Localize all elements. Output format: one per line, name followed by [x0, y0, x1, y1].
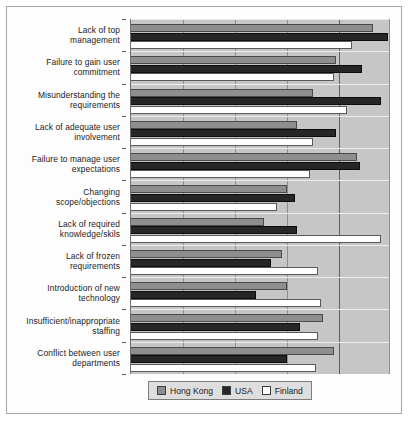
- y-axis-label-line: management: [8, 35, 120, 45]
- legend-swatch-icon: [222, 386, 231, 395]
- bar-group: [131, 277, 389, 309]
- bar-usa: [131, 226, 297, 234]
- category-separator: [131, 309, 389, 310]
- bar-hong-kong: [131, 121, 297, 129]
- y-axis-label-line: technology: [8, 293, 120, 303]
- y-axis-tick: [122, 342, 126, 343]
- bar-finland: [131, 41, 352, 49]
- y-axis-label: Misunderstanding therequirements: [8, 90, 120, 110]
- y-axis-label-line: Conflict between user: [8, 348, 120, 358]
- y-axis-tick: [122, 180, 126, 181]
- bar-hong-kong: [131, 282, 287, 290]
- legend-label: Hong Kong: [170, 386, 213, 396]
- y-axis-label-line: expectations: [8, 164, 120, 174]
- y-axis-label-line: knowledge/skils: [8, 229, 120, 239]
- bar-finland: [131, 364, 316, 372]
- bar-group: [131, 213, 389, 245]
- y-axis-label-line: Lack of required: [8, 219, 120, 229]
- y-axis-label: Insufficient/inappropriatestaffing: [8, 316, 120, 336]
- legend-item-usa[interactable]: USA: [222, 386, 253, 396]
- bar-usa: [131, 259, 271, 267]
- bar-usa: [131, 162, 360, 170]
- bar-group: [131, 342, 389, 374]
- y-axis-tick: [122, 309, 126, 310]
- y-axis-label: Introduction of newtechnology: [8, 283, 120, 303]
- y-axis-tick: [122, 148, 126, 149]
- bar-group: [131, 19, 389, 51]
- y-axis-label-line: Lack of frozen: [8, 251, 120, 261]
- y-axis-label: Lack of topmanagement: [8, 25, 120, 45]
- bar-group: [131, 84, 389, 116]
- y-axis-tick: [122, 116, 126, 117]
- y-axis-tick: [122, 51, 126, 52]
- y-axis-label: Failure to gain usercommitment: [8, 57, 120, 77]
- y-axis-label-line: requirements: [8, 261, 120, 271]
- legend-label: Finland: [275, 386, 303, 396]
- bar-hong-kong: [131, 56, 336, 64]
- legend-item-hong-kong[interactable]: Hong Kong: [157, 386, 213, 396]
- y-axis-label-line: staffing: [8, 326, 120, 336]
- y-axis-label-line: Changing: [8, 187, 120, 197]
- bar-group: [131, 245, 389, 277]
- category-separator: [131, 180, 389, 181]
- y-axis-label: Lack of requiredknowledge/skils: [8, 219, 120, 239]
- bar-hong-kong: [131, 24, 373, 32]
- bar-finland: [131, 106, 347, 114]
- chart-figure: Lack of topmanagementFailure to gain use…: [0, 0, 409, 421]
- y-axis-label-line: involvement: [8, 132, 120, 142]
- bar-hong-kong: [131, 347, 334, 355]
- bar-hong-kong: [131, 185, 287, 193]
- bar-usa: [131, 97, 381, 105]
- bar-hong-kong: [131, 153, 357, 161]
- category-separator: [131, 19, 389, 20]
- y-axis-label-line: departments: [8, 358, 120, 368]
- bar-finland: [131, 170, 310, 178]
- bar-usa: [131, 194, 295, 202]
- y-axis-label-line: scope/objections: [8, 197, 120, 207]
- category-separator: [131, 84, 389, 85]
- category-separator: [131, 213, 389, 214]
- y-axis-labels: Lack of topmanagementFailure to gain use…: [12, 19, 126, 374]
- bar-hong-kong: [131, 250, 282, 258]
- bar-hong-kong: [131, 218, 264, 226]
- y-axis-label: Lack of adequate userinvolvement: [8, 122, 120, 142]
- bar-finland: [131, 73, 334, 81]
- category-separator: [131, 148, 389, 149]
- y-axis-label-line: Lack of adequate user: [8, 122, 120, 132]
- bar-usa: [131, 129, 336, 137]
- bar-group: [131, 148, 389, 180]
- legend-swatch-icon: [262, 386, 271, 395]
- bar-usa: [131, 65, 362, 73]
- bar-usa: [131, 291, 256, 299]
- bar-usa: [131, 33, 388, 41]
- bar-finland: [131, 138, 313, 146]
- bar-hong-kong: [131, 314, 323, 322]
- bar-finland: [131, 235, 381, 243]
- y-axis-label-line: Failure to manage user: [8, 154, 120, 164]
- y-axis-label-line: Failure to gain user: [8, 57, 120, 67]
- y-axis-label-line: requirements: [8, 100, 120, 110]
- bar-finland: [131, 203, 277, 211]
- bar-group: [131, 180, 389, 212]
- y-axis-label: Changingscope/objections: [8, 187, 120, 207]
- category-separator: [131, 245, 389, 246]
- y-axis-tick: [122, 84, 126, 85]
- bar-group: [131, 309, 389, 341]
- y-axis-label-line: Lack of top: [8, 25, 120, 35]
- category-separator: [131, 277, 389, 278]
- bar-usa: [131, 355, 287, 363]
- chart-legend: Hong KongUSAFinland: [148, 381, 312, 400]
- bar-finland: [131, 332, 318, 340]
- bar-group: [131, 116, 389, 148]
- legend-item-finland[interactable]: Finland: [262, 386, 303, 396]
- bar-finland: [131, 299, 321, 307]
- y-axis-tick: [122, 277, 126, 278]
- y-axis-label: Lack of frozenrequirements: [8, 251, 120, 271]
- y-axis-label: Conflict between userdepartments: [8, 348, 120, 368]
- y-axis-label-line: Misunderstanding the: [8, 90, 120, 100]
- y-axis-label-line: Introduction of new: [8, 283, 120, 293]
- y-axis-tick: [122, 245, 126, 246]
- bar-group: [131, 51, 389, 83]
- y-axis-label: Failure to manage userexpectations: [8, 154, 120, 174]
- y-axis-tick: [122, 213, 126, 214]
